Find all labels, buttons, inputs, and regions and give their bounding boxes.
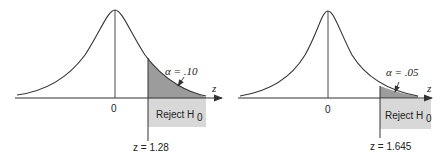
critical-value-label: z = 1.28 — [133, 142, 169, 153]
critical-value-label: z = 1.645 — [370, 141, 412, 152]
zero-label: 0 — [325, 104, 331, 115]
axis-label: z — [211, 82, 217, 94]
reject-label: Reject H — [156, 109, 194, 120]
normal-curve — [240, 11, 418, 96]
normal-distribution-diagrams: α = .10 z 0 Reject H 0 z = 1.28 α = .05 … — [0, 0, 446, 157]
reject-label: Reject H — [385, 110, 423, 121]
alpha-arrow — [178, 77, 184, 86]
axis-label: z — [426, 82, 432, 94]
alpha-label: α = .10 — [165, 65, 198, 77]
reject-subscript: 0 — [426, 113, 432, 124]
reject-subscript: 0 — [197, 112, 203, 123]
panel-right: α = .05 z 0 Reject H 0 z = 1.645 — [238, 11, 432, 152]
tail-area — [380, 86, 418, 98]
zero-label: 0 — [111, 103, 117, 114]
normal-curve — [17, 10, 206, 96]
tail-area — [148, 58, 206, 98]
alpha-label: α = .05 — [386, 66, 419, 78]
panel-left: α = .10 z 0 Reject H 0 z = 1.28 — [15, 10, 222, 153]
